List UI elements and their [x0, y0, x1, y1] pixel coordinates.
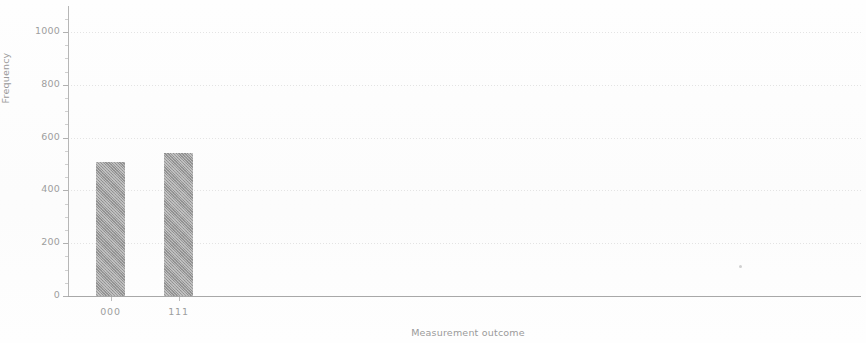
bar[interactable] [96, 162, 125, 296]
y-axis-tick-label: 0 [20, 289, 60, 300]
y-axis-tick-label: 200 [20, 236, 60, 247]
y-gridline [68, 32, 861, 33]
x-axis-title: Measurement outcome [0, 327, 866, 338]
y-gridline [68, 138, 861, 139]
x-axis-tick-label: 111 [149, 306, 209, 317]
y-axis-title: Frequency [0, 30, 18, 126]
scan-artifact-speck [739, 265, 742, 268]
y-axis-tick-label: 600 [20, 131, 60, 142]
bar-chart-figure: Frequency 02004006008001000 000111 Measu… [0, 0, 866, 343]
bar[interactable] [164, 153, 193, 296]
x-axis-tick [111, 297, 112, 301]
y-axis-tick-label: 800 [20, 78, 60, 89]
x-axis-tick [179, 297, 180, 301]
x-axis-tick-label: 000 [81, 306, 141, 317]
y-axis-spine [68, 6, 69, 297]
y-gridline [68, 85, 861, 86]
y-axis-tick-label: 1000 [20, 25, 60, 36]
scan-texture-overlay [0, 0, 866, 343]
x-axis-title-text: Measurement outcome [341, 327, 525, 338]
x-axis-spine [68, 296, 861, 297]
y-axis-tick-label: 400 [20, 183, 60, 194]
